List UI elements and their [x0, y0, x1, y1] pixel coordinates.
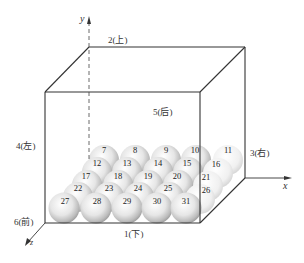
sphere-label: 25: [164, 184, 173, 193]
z-axis-label: z: [30, 238, 33, 247]
sphere-label: 26: [202, 186, 211, 195]
sphere-label: 8: [133, 146, 137, 155]
sphere-label: 18: [114, 172, 123, 181]
sphere-label: 16: [212, 160, 221, 169]
sphere-label: 10: [191, 146, 200, 155]
sphere-label: 13: [123, 159, 132, 168]
face-label-left: 4(左): [16, 141, 36, 151]
sphere-label: 14: [154, 159, 163, 168]
face-label-top: 2(上): [108, 35, 128, 45]
face-label-front: 6(前): [14, 217, 34, 227]
face-label-bottom: 1(下): [124, 229, 144, 239]
sphere-label: 31: [182, 197, 191, 206]
sphere-label: 28: [93, 197, 102, 206]
sphere-label: 30: [153, 197, 162, 206]
sphere-label: 27: [61, 197, 70, 206]
sphere-label: 17: [82, 172, 91, 181]
y-axis-label: y: [80, 13, 84, 24]
sphere-label: 21: [202, 173, 211, 182]
sphere-label: 23: [105, 184, 114, 193]
sphere-label: 9: [164, 146, 168, 155]
x-axis-label: x: [283, 180, 287, 191]
sphere-label: 22: [74, 184, 83, 193]
sphere-label: 15: [183, 159, 192, 168]
y-axis-arrow-icon: [87, 16, 91, 24]
sphere-label: 11: [224, 146, 232, 155]
sphere-label: 12: [93, 159, 102, 168]
sphere-label: 7: [102, 146, 106, 155]
face-label-right: 3(右): [250, 148, 270, 158]
diagram-graphics: [0, 0, 304, 263]
sphere-label: 24: [134, 184, 143, 193]
sphere-label: 19: [144, 172, 153, 181]
sphere-label: 20: [173, 172, 182, 181]
box-sphere-diagram: 2(上) 5(后) 4(左) 3(右) 6(前) 1(下) y x z 7 8 …: [0, 0, 304, 263]
face-label-back: 5(后): [153, 107, 173, 117]
sphere-label: 29: [123, 197, 132, 206]
